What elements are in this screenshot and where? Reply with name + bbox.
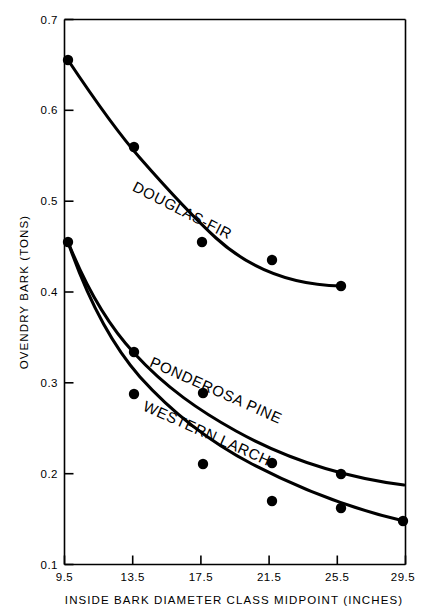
data-point (129, 142, 139, 152)
y-axis-title: OVENDRY BARK (TONS) (18, 215, 30, 369)
data-point (198, 459, 208, 469)
bark-weight-chart: 0.7 0.6 0.5 0.4 0.3 0.2 0.1 9.5 13.5 17.… (0, 0, 432, 613)
data-point (129, 389, 139, 399)
data-point (63, 237, 73, 247)
y-tick-label-0.3: 0.3 (41, 377, 59, 389)
data-point (267, 255, 277, 265)
y-tick-label-0.6: 0.6 (41, 104, 59, 116)
data-point (336, 281, 346, 291)
y-tick-label-0.1: 0.1 (41, 559, 59, 571)
x-tick-label-13.5: 13.5 (121, 571, 145, 583)
y-tick-label-0.5: 0.5 (41, 195, 59, 207)
data-point (197, 237, 207, 247)
chart-figure: 0.7 0.6 0.5 0.4 0.3 0.2 0.1 9.5 13.5 17.… (0, 0, 432, 613)
data-point (336, 503, 346, 513)
x-tick-label-29.5: 29.5 (391, 571, 415, 583)
data-point (398, 516, 408, 526)
x-tick-label-21.5: 21.5 (257, 571, 281, 583)
data-point (63, 55, 73, 65)
data-point (267, 496, 277, 506)
y-tick-label-0.7: 0.7 (41, 14, 59, 26)
y-tick-label-0.4: 0.4 (41, 286, 59, 298)
x-tick-label-25.5: 25.5 (325, 571, 349, 583)
data-point (336, 469, 346, 479)
data-point (129, 347, 139, 357)
x-axis-title: INSIDE BARK DIAMETER CLASS MIDPOINT (INC… (65, 594, 403, 606)
x-tick-label-9.5: 9.5 (56, 571, 74, 583)
x-tick-label-17.5: 17.5 (189, 571, 213, 583)
y-tick-label-0.2: 0.2 (41, 468, 59, 480)
